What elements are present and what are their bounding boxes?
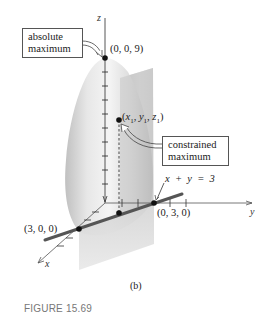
z1-sub: 1 xyxy=(156,117,160,125)
z-axis-label: z xyxy=(97,13,101,23)
point-3-0-0 xyxy=(76,226,82,232)
constrained-max-callout: constrained maximum xyxy=(162,136,229,166)
y-axis-label: y xyxy=(250,207,254,217)
absolute-max-coord-label: (0, 0, 9) xyxy=(110,44,143,55)
absolute-max-callout-arrow xyxy=(82,41,102,57)
x1-sub: 1 xyxy=(130,117,134,125)
x-axis-label: x xyxy=(45,259,49,269)
point-constrained-max xyxy=(116,117,122,123)
equation-leader xyxy=(157,183,164,199)
constrained-max-callout-line2: maximum xyxy=(168,151,223,163)
constraint-equation-label: x + y = 3 xyxy=(165,174,215,185)
constrained-max-callout-line1: constrained xyxy=(168,139,223,151)
point-line-mid xyxy=(116,210,122,216)
point-0-3-0 xyxy=(151,200,157,206)
absolute-max-callout-line1: absolute xyxy=(28,31,77,43)
absolute-max-callout: absolute maximum xyxy=(22,28,83,58)
y1-sub: 1 xyxy=(144,117,148,125)
constrained-max-coord-label: (x1, y1, z1) xyxy=(122,112,163,125)
constraint-plane-upper xyxy=(120,68,154,215)
point-0-3-0-label: (0, 3, 0) xyxy=(157,208,190,219)
figure-15-69: z y x (0, 0, 9) (x1, y1, z1) (0, 3, 0) (… xyxy=(0,0,273,317)
figure-number: FIGURE 15.69 xyxy=(24,303,92,314)
subfigure-label: (b) xyxy=(130,280,142,291)
absolute-max-callout-line2: maximum xyxy=(28,43,77,55)
point-absolute-max xyxy=(102,55,108,61)
point-3-0-0-label: (3, 0, 0) xyxy=(24,224,57,235)
